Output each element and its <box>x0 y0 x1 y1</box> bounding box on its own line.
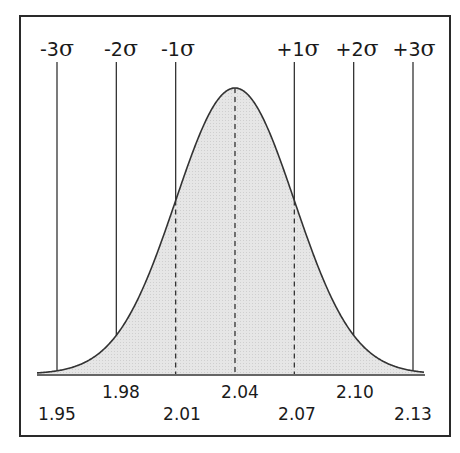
x-tick-1.95: 1.95 <box>38 404 76 424</box>
x-tick-1.98: 1.98 <box>102 382 140 402</box>
x-tick-2.01: 2.01 <box>163 404 201 424</box>
x-tick-2.04: 2.04 <box>221 382 259 402</box>
sigma-label-neg1: -1σ <box>161 36 195 61</box>
sigma-label-pos3: +3σ <box>392 36 435 61</box>
x-tick-2.13: 2.13 <box>394 404 432 424</box>
x-tick-2.07: 2.07 <box>278 404 316 424</box>
sigma-label-pos1: +1σ <box>276 36 319 61</box>
sigma-label-pos2: +2σ <box>335 36 378 61</box>
x-tick-2.10: 2.10 <box>336 382 374 402</box>
curve-fill-area <box>37 88 424 374</box>
sigma-label-neg3: -3σ <box>40 36 74 61</box>
sigma-label-neg2: -2σ <box>104 36 138 61</box>
normal-curve <box>37 88 424 374</box>
